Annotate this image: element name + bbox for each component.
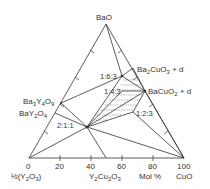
axis-tick-0: 0	[26, 162, 31, 171]
label-1-2-3: 1:2:3	[136, 109, 153, 118]
ternary-phase-diagram: BaO Ba2CuO3 + d BaCuO2 + d 1:6:3 1:4:3 1…	[0, 0, 210, 189]
axis-tick-40: 40	[86, 162, 95, 171]
label-y2cu2o5: Y2Cu2O3	[89, 172, 122, 182]
label-ba3y4o9: Ba3Y4O9	[23, 97, 55, 107]
axis-tick-60: 60	[117, 162, 126, 171]
vertex-label-bao: BaO	[96, 13, 112, 22]
axis-tick-80: 80	[148, 162, 157, 171]
vertex-label-y2o3: ½(Y2O3)	[11, 172, 42, 182]
label-bay2o4: BaY2O4	[19, 109, 48, 119]
axis-tick-20: 20	[55, 162, 64, 171]
label-2-1-1: 2:1:1	[57, 121, 74, 130]
vertex-label-cuo: CuO	[176, 172, 192, 181]
label-bacuo2: BaCuO2 + d	[148, 87, 191, 97]
label-1-6-3: 1:6:3	[100, 72, 117, 81]
axis-tick-100: 100	[177, 162, 191, 171]
label-1-4-3: 1:4:3	[104, 87, 121, 96]
label-ba2cuo3: Ba2CuO3 + d	[137, 65, 184, 75]
axis-label-mol: Mol %	[139, 172, 161, 181]
